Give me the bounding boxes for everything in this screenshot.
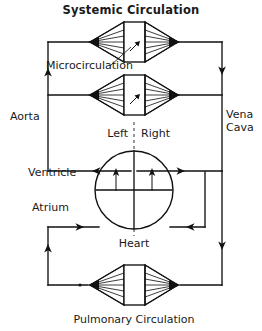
label-vena-cava-line1: Vena <box>226 108 253 121</box>
capillary-bed-pulmonary <box>88 265 180 305</box>
diagram-page: Systemic Circulation <box>0 0 262 331</box>
capillary-apex-right-3 <box>169 280 180 290</box>
capillary-bed-box <box>124 22 145 62</box>
label-left: Left <box>107 127 128 140</box>
capillary-bed-box-2 <box>124 75 145 115</box>
label-atrium: Atrium <box>32 201 69 214</box>
label-aorta: Aorta <box>10 110 40 123</box>
junction-dot-pulmonary <box>78 283 81 286</box>
label-heart: Heart <box>119 237 150 250</box>
capillary-apex-left-3 <box>88 280 99 290</box>
capillary-bed-lower <box>88 75 180 115</box>
label-microcirculation: Microcirculation <box>46 59 133 72</box>
capillary-apex-left <box>88 37 99 47</box>
label-right: Right <box>141 127 171 140</box>
capillary-apex-left-2 <box>88 90 99 100</box>
label-ventricle: Ventricle <box>28 166 76 179</box>
label-vena-cava-line2: Cava <box>226 121 254 134</box>
capillary-apex-right-2 <box>169 90 180 100</box>
capillary-bed-box-3 <box>124 265 145 305</box>
footer-title: Pulmonary Circulation <box>73 313 194 326</box>
capillary-apex-right <box>169 37 180 47</box>
capillary-bed-top <box>88 22 180 62</box>
page-title: Systemic Circulation <box>63 3 200 17</box>
circulation-diagram: Systemic Circulation <box>0 0 262 331</box>
